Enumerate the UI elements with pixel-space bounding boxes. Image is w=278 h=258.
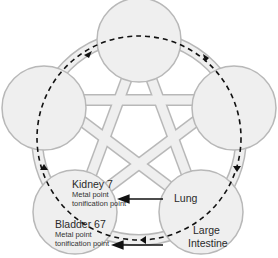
bladder-label: Bladder 67 bbox=[55, 219, 106, 230]
node-right bbox=[192, 66, 276, 150]
kidney-sub1: Metal point bbox=[72, 191, 109, 199]
element-circles bbox=[2, 0, 276, 254]
bladder-sub1: Metal point bbox=[55, 231, 92, 239]
lung-label: Lung bbox=[174, 193, 197, 204]
kidney-label: Kidney 7 bbox=[72, 179, 113, 190]
kidney-sub2: tonification point bbox=[72, 200, 126, 208]
five-element-diagram bbox=[0, 0, 278, 258]
bladder-sub2: tonification point bbox=[55, 240, 109, 248]
large-intestine-label-1: Large bbox=[193, 225, 220, 236]
node-top bbox=[97, 0, 181, 82]
node-left bbox=[2, 66, 86, 150]
large-intestine-label-2: Intestine bbox=[188, 238, 228, 249]
